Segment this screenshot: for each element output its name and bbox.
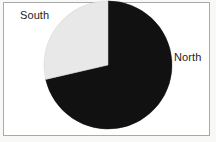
pie-chart-svg: [0, 0, 216, 142]
pie-label-south: South: [20, 9, 49, 21]
pie-chart: South North: [0, 0, 216, 142]
pie-label-north: North: [174, 51, 201, 63]
pie-chart-screenshot: South North: [0, 0, 216, 142]
